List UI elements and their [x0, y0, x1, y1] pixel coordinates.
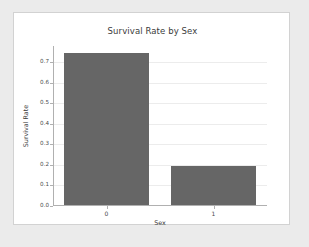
bar	[64, 53, 150, 205]
y-axis-spine	[53, 46, 54, 206]
plot-area: 0.00.10.20.30.40.50.60.7 01	[53, 46, 267, 206]
x-tick-label: 0	[105, 211, 109, 217]
figure-panel: Survival Rate by Sex 0.00.10.20.30.40.50…	[13, 12, 290, 225]
y-tick-label: 0.1	[40, 183, 49, 189]
y-tick-label: 0.5	[40, 101, 49, 107]
x-axis-spine	[53, 205, 267, 206]
x-tick-mark	[214, 206, 215, 209]
bar	[171, 166, 257, 205]
y-tick-label: 0.6	[40, 80, 49, 86]
x-tick-label: 1	[212, 211, 216, 217]
y-axis-label: Survival Rate	[22, 105, 30, 147]
x-tick-mark	[107, 206, 108, 209]
x-axis-label: Sex	[53, 219, 267, 227]
y-tick-label: 0.4	[40, 121, 49, 127]
y-tick-label: 0.2	[40, 162, 49, 168]
y-tick-label: 0.7	[40, 60, 49, 66]
y-tick-mark	[50, 206, 53, 207]
y-tick-label: 0.0	[40, 203, 49, 209]
chart-title: Survival Rate by Sex	[14, 26, 291, 36]
y-tick-label: 0.3	[40, 142, 49, 148]
